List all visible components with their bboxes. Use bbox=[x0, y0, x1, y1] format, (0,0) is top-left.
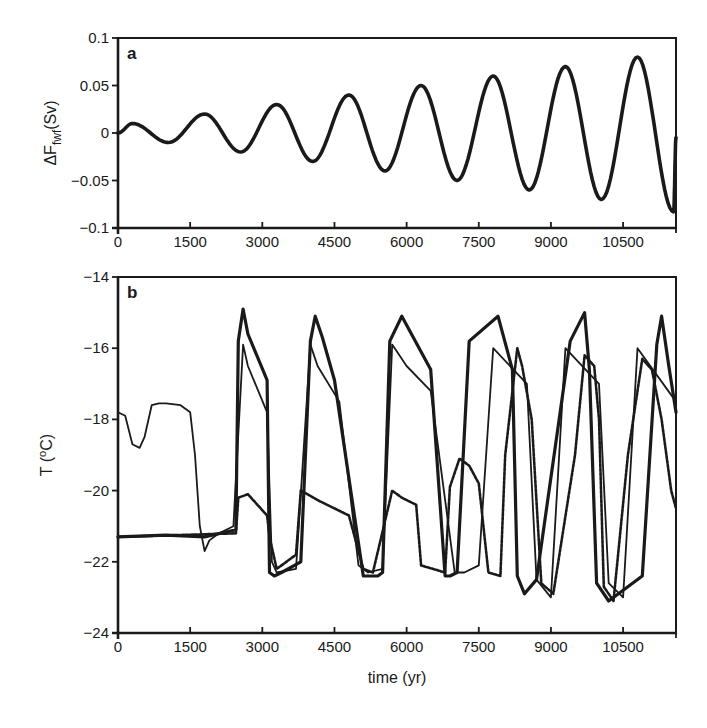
y-tick-label: 0.05 bbox=[80, 77, 109, 94]
y-tick-label: −14 bbox=[84, 268, 109, 285]
x-tick-label: 6000 bbox=[390, 638, 423, 655]
y-axis-label: T (oC) bbox=[36, 434, 55, 476]
y-tick-label: −16 bbox=[84, 339, 109, 356]
series-line-1 bbox=[118, 57, 676, 212]
y-axis-label: ΔFfwf(Sv) bbox=[42, 100, 64, 165]
y-tick-label: −18 bbox=[84, 410, 109, 427]
panel-a-chart: 015003000450060007500900010500−0.1−0.050… bbox=[42, 29, 676, 250]
x-tick-label: 3000 bbox=[246, 638, 279, 655]
panel-label: a bbox=[127, 44, 137, 63]
y-tick-label: 0 bbox=[101, 124, 109, 141]
x-tick-label: 7500 bbox=[462, 233, 495, 250]
plot-frame bbox=[118, 38, 676, 228]
y-tick-label: −20 bbox=[84, 482, 109, 499]
y-tick-label: 0.1 bbox=[88, 29, 109, 46]
x-tick-label: 10500 bbox=[602, 233, 644, 250]
x-axis-label: time (yr) bbox=[368, 669, 427, 686]
x-tick-label: 0 bbox=[114, 638, 122, 655]
x-tick-label: 4500 bbox=[318, 233, 351, 250]
figure: 015003000450060007500900010500−0.1−0.050… bbox=[0, 0, 707, 728]
y-tick-label: −24 bbox=[84, 624, 109, 641]
x-tick-label: 6000 bbox=[390, 233, 423, 250]
x-tick-label: 10500 bbox=[602, 638, 644, 655]
y-tick-label: −0.1 bbox=[79, 219, 109, 236]
panel-b-chart: 015003000450060007500900010500−24−22−20−… bbox=[36, 268, 676, 686]
x-tick-label: 1500 bbox=[173, 638, 206, 655]
x-tick-label: 4500 bbox=[318, 638, 351, 655]
x-tick-label: 3000 bbox=[246, 233, 279, 250]
panel-label: b bbox=[127, 283, 137, 302]
x-tick-label: 7500 bbox=[462, 638, 495, 655]
y-tick-label: −0.05 bbox=[71, 172, 109, 189]
x-tick-label: 9000 bbox=[534, 638, 567, 655]
x-tick-label: 0 bbox=[114, 233, 122, 250]
x-tick-label: 1500 bbox=[173, 233, 206, 250]
y-tick-label: −22 bbox=[84, 553, 109, 570]
x-tick-label: 9000 bbox=[534, 233, 567, 250]
